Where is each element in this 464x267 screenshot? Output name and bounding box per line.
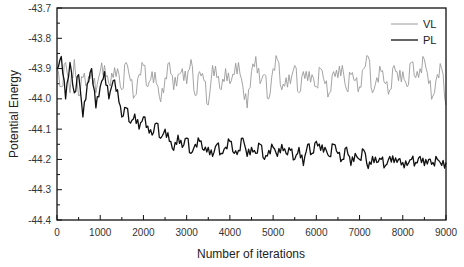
line-chart: -43.7-43.8-43.9-44.0-44.1-44.2-44.3-44.4…	[0, 0, 464, 267]
y-tick-label: -43.7	[28, 3, 51, 14]
x-tick-label: 2000	[132, 227, 155, 238]
legend-label-pl: PL	[423, 34, 436, 46]
x-tick-label: 1000	[89, 227, 112, 238]
x-tick-label: 5000	[262, 227, 285, 238]
y-tick-label: -43.8	[28, 33, 51, 44]
x-tick-label: 7000	[348, 227, 371, 238]
x-tick-label: 6000	[305, 227, 328, 238]
x-axis-title: Number of iterations	[197, 247, 305, 261]
y-tick-label: -44.2	[28, 154, 51, 165]
x-tick-label: 0	[54, 227, 60, 238]
y-tick-label: -44.4	[28, 215, 51, 226]
x-tick-label: 3000	[176, 227, 199, 238]
x-axis-tick-labels: 0100020003000400050006000700080009000	[54, 227, 457, 238]
series-layer	[57, 56, 446, 169]
x-tick-label: 8000	[392, 227, 415, 238]
y-axis-title: Potential Energy	[7, 70, 21, 158]
x-tick-label: 9000	[435, 227, 458, 238]
plot-frame	[57, 8, 446, 220]
y-tick-label: -43.9	[28, 63, 51, 74]
axis-ticks	[57, 8, 446, 220]
legend: VL PL	[391, 18, 436, 46]
y-tick-label: -44.1	[28, 124, 51, 135]
y-axis-tick-labels: -43.7-43.8-43.9-44.0-44.1-44.2-44.3-44.4	[28, 3, 51, 226]
legend-label-vl: VL	[423, 18, 436, 30]
x-tick-label: 4000	[219, 227, 242, 238]
y-tick-label: -44.0	[28, 93, 51, 104]
y-tick-label: -44.3	[28, 184, 51, 195]
